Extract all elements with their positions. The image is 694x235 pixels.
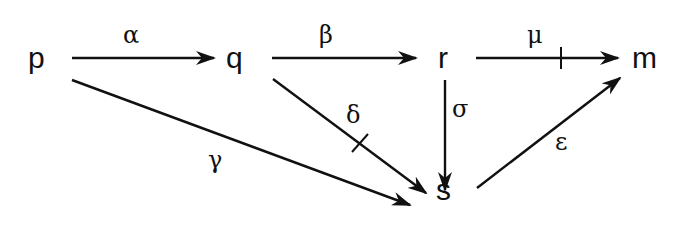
node-r: r: [438, 41, 448, 74]
label-delta: δ: [346, 101, 360, 129]
node-q: q: [226, 41, 243, 74]
node-s: s: [436, 173, 451, 206]
label-gamma: γ: [208, 146, 222, 174]
label-alpha: α: [123, 21, 139, 49]
edge-epsilon: [477, 78, 620, 188]
label-epsilon: ε: [555, 128, 567, 156]
label-sigma: σ: [452, 95, 468, 123]
node-p: p: [28, 41, 45, 74]
node-m: m: [632, 41, 657, 74]
label-beta: β: [319, 21, 333, 49]
diagram-canvas: p q r m s α β μ γ δ σ ε: [0, 0, 694, 235]
label-mu: μ: [527, 21, 543, 49]
edge-delta: [273, 79, 426, 193]
